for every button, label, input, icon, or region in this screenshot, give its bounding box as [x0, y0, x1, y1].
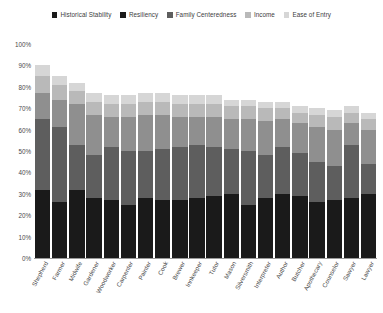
- bar-segment[interactable]: [155, 200, 170, 258]
- bar-column[interactable]: [344, 44, 359, 258]
- bar-segment[interactable]: [104, 200, 119, 258]
- bar-segment[interactable]: [206, 95, 221, 104]
- bar-segment[interactable]: [172, 95, 187, 104]
- bar-segment[interactable]: [138, 151, 153, 198]
- bar-segment[interactable]: [206, 117, 221, 147]
- bar-segment[interactable]: [35, 190, 50, 258]
- bar-segment[interactable]: [309, 162, 324, 203]
- legend-item[interactable]: Income: [245, 12, 275, 18]
- bar-segment[interactable]: [241, 119, 256, 151]
- bar-segment[interactable]: [344, 198, 359, 258]
- bar-segment[interactable]: [344, 113, 359, 124]
- legend-item[interactable]: Ease of Entry: [284, 12, 331, 18]
- bar-segment[interactable]: [361, 164, 376, 194]
- bar-segment[interactable]: [327, 200, 342, 258]
- bar-segment[interactable]: [344, 145, 359, 199]
- bar-segment[interactable]: [224, 119, 239, 149]
- bar-segment[interactable]: [344, 123, 359, 144]
- bar-segment[interactable]: [155, 93, 170, 102]
- bar-segment[interactable]: [327, 117, 342, 130]
- bar-segment[interactable]: [138, 198, 153, 258]
- bar-segment[interactable]: [86, 115, 101, 156]
- bar-segment[interactable]: [52, 127, 67, 202]
- bar-segment[interactable]: [224, 106, 239, 119]
- legend-item[interactable]: Resiliency: [120, 12, 158, 18]
- bar-segment[interactable]: [206, 196, 221, 258]
- bar-segment[interactable]: [121, 151, 136, 205]
- bar-segment[interactable]: [206, 104, 221, 117]
- bar-segment[interactable]: [189, 95, 204, 104]
- bar-segment[interactable]: [138, 102, 153, 115]
- bar-segment[interactable]: [361, 194, 376, 258]
- bar-segment[interactable]: [309, 127, 324, 161]
- bar-segment[interactable]: [189, 145, 204, 199]
- bar-segment[interactable]: [86, 155, 101, 198]
- bar-segment[interactable]: [104, 95, 119, 104]
- bar-segment[interactable]: [104, 147, 119, 201]
- bar-segment[interactable]: [155, 102, 170, 115]
- bar-segment[interactable]: [275, 108, 290, 119]
- bar-column[interactable]: [189, 44, 204, 258]
- bar-segment[interactable]: [275, 194, 290, 258]
- bar-segment[interactable]: [206, 147, 221, 196]
- bar-segment[interactable]: [309, 115, 324, 128]
- bar-segment[interactable]: [292, 113, 307, 124]
- bar-segment[interactable]: [35, 119, 50, 190]
- bar-column[interactable]: [241, 44, 256, 258]
- bar-segment[interactable]: [172, 104, 187, 117]
- bar-segment[interactable]: [35, 65, 50, 76]
- bar-segment[interactable]: [189, 104, 204, 117]
- bar-column[interactable]: [104, 44, 119, 258]
- bar-segment[interactable]: [224, 149, 239, 194]
- bar-segment[interactable]: [327, 130, 342, 166]
- bar-segment[interactable]: [224, 194, 239, 258]
- bar-segment[interactable]: [69, 190, 84, 258]
- bar-segment[interactable]: [361, 130, 376, 164]
- bar-segment[interactable]: [361, 119, 376, 130]
- legend-item[interactable]: Family Centeredness: [167, 12, 236, 18]
- bar-segment[interactable]: [69, 145, 84, 190]
- bar-segment[interactable]: [327, 166, 342, 200]
- bar-column[interactable]: [206, 44, 221, 258]
- bar-segment[interactable]: [35, 93, 50, 119]
- bar-column[interactable]: [361, 44, 376, 258]
- bar-segment[interactable]: [189, 117, 204, 145]
- bar-segment[interactable]: [241, 106, 256, 119]
- bar-segment[interactable]: [35, 76, 50, 93]
- bar-column[interactable]: [69, 44, 84, 258]
- bar-segment[interactable]: [121, 104, 136, 117]
- bar-segment[interactable]: [275, 119, 290, 147]
- bar-segment[interactable]: [69, 83, 84, 92]
- bar-column[interactable]: [35, 44, 50, 258]
- bar-segment[interactable]: [138, 115, 153, 151]
- bar-segment[interactable]: [138, 93, 153, 102]
- bar-segment[interactable]: [52, 76, 67, 85]
- bar-column[interactable]: [172, 44, 187, 258]
- bar-segment[interactable]: [69, 104, 84, 145]
- bar-segment[interactable]: [52, 100, 67, 128]
- bar-column[interactable]: [292, 44, 307, 258]
- bar-column[interactable]: [155, 44, 170, 258]
- bar-segment[interactable]: [121, 117, 136, 151]
- bar-segment[interactable]: [309, 202, 324, 258]
- bar-segment[interactable]: [155, 149, 170, 200]
- bar-segment[interactable]: [258, 198, 273, 258]
- bar-column[interactable]: [275, 44, 290, 258]
- bar-segment[interactable]: [292, 123, 307, 153]
- bar-segment[interactable]: [86, 102, 101, 115]
- bar-segment[interactable]: [52, 202, 67, 258]
- bar-column[interactable]: [327, 44, 342, 258]
- bar-segment[interactable]: [172, 147, 187, 201]
- bar-segment[interactable]: [172, 200, 187, 258]
- bar-column[interactable]: [224, 44, 239, 258]
- bar-segment[interactable]: [258, 155, 273, 198]
- bar-segment[interactable]: [69, 91, 84, 104]
- bar-segment[interactable]: [52, 85, 67, 100]
- bar-column[interactable]: [309, 44, 324, 258]
- bar-segment[interactable]: [104, 104, 119, 117]
- bar-segment[interactable]: [86, 93, 101, 102]
- bar-segment[interactable]: [104, 117, 119, 147]
- bar-segment[interactable]: [241, 205, 256, 259]
- bar-segment[interactable]: [121, 95, 136, 104]
- legend-item[interactable]: Historical Stability: [52, 12, 111, 18]
